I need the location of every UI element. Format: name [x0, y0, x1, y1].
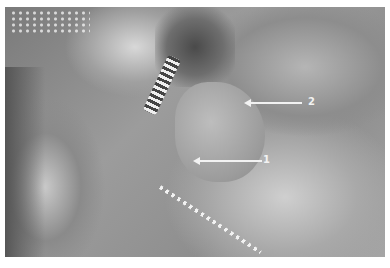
annotation-label-1: 1 [263, 155, 270, 165]
tissue-shadow-left [5, 67, 45, 257]
arrow-head-icon [244, 99, 251, 107]
annotation-label-2: 2 [308, 97, 315, 107]
arrow-head-icon [193, 157, 200, 165]
surgical-photo [5, 7, 385, 257]
specular-highlights [10, 10, 90, 35]
annotation-arrow-2 [250, 102, 302, 104]
tissue-fold [175, 82, 265, 182]
annotation-arrow-1 [199, 160, 262, 162]
light-reflection-dots [159, 185, 262, 254]
